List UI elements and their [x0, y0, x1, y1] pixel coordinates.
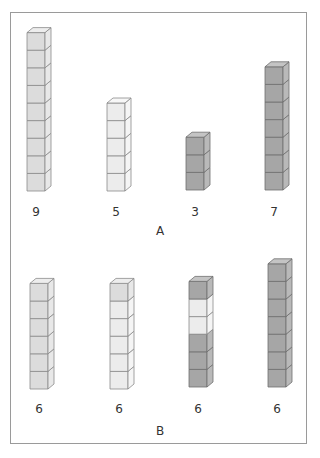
cube-front-face [265, 84, 283, 102]
cube-tower [268, 259, 292, 387]
tower-count-label: 6 [24, 402, 54, 416]
cube-front-face [186, 155, 204, 173]
cube-front-face [27, 103, 45, 121]
cube-front-face [107, 173, 125, 191]
group-label-b: B [145, 424, 175, 438]
cube-front-face [27, 68, 45, 86]
cube-front-face [189, 299, 207, 317]
cube-front-face [27, 85, 45, 103]
cube-front-face [27, 138, 45, 156]
cube-front-face [27, 121, 45, 139]
cube-tower [27, 28, 51, 191]
cube-tower [110, 278, 134, 389]
tower-count-label: 6 [262, 402, 292, 416]
tower-count-label: 3 [180, 205, 210, 219]
cube-front-face [27, 50, 45, 68]
cube-front-face [265, 67, 283, 85]
tower-count-label: 9 [21, 205, 51, 219]
cube [27, 28, 51, 51]
cube-front-face [107, 121, 125, 139]
cube-front-face [30, 371, 48, 389]
cube-front-face [268, 281, 286, 299]
cube-front-face [30, 301, 48, 319]
cube-front-face [268, 334, 286, 352]
cube-front-face [268, 369, 286, 387]
group-a [27, 28, 289, 191]
cube-front-face [268, 352, 286, 370]
cube-front-face [107, 156, 125, 174]
cube-front-face [30, 336, 48, 354]
cube-front-face [265, 155, 283, 173]
cube-front-face [30, 319, 48, 337]
cube-front-face [30, 354, 48, 372]
cube-tower [265, 62, 289, 190]
cube-tower [186, 132, 210, 190]
cube-front-face [265, 120, 283, 138]
cube-front-face [268, 264, 286, 282]
cube-front-face [110, 283, 128, 301]
group-b [30, 259, 292, 389]
cube-front-face [189, 369, 207, 387]
cube-tower [107, 98, 131, 191]
cube-front-face [186, 172, 204, 190]
cube-front-face [107, 103, 125, 121]
cube [265, 62, 289, 85]
group-label-a: A [145, 224, 175, 238]
cube-front-face [189, 317, 207, 335]
cube-front-face [110, 336, 128, 354]
cube-front-face [107, 138, 125, 156]
cube-front-face [27, 173, 45, 191]
cube-front-face [265, 137, 283, 155]
tower-count-label: 6 [104, 402, 134, 416]
cube-front-face [186, 137, 204, 155]
cube-front-face [189, 352, 207, 370]
cube-front-face [268, 317, 286, 335]
cube-front-face [110, 301, 128, 319]
cube [189, 276, 213, 299]
cube-front-face [268, 299, 286, 317]
tower-count-label: 6 [183, 402, 213, 416]
cube-front-face [189, 334, 207, 352]
cube-front-face [110, 371, 128, 389]
cube [186, 132, 210, 155]
cube-front-face [189, 281, 207, 299]
cube-tower [189, 276, 213, 387]
cube [110, 278, 134, 301]
cube-tower [30, 278, 54, 389]
cube [107, 98, 131, 121]
cube-front-face [27, 156, 45, 174]
cube-front-face [110, 319, 128, 337]
cube [268, 259, 292, 282]
cube-front-face [265, 102, 283, 120]
cube-front-face [265, 172, 283, 190]
cube-front-face [27, 33, 45, 51]
tower-count-label: 5 [101, 205, 131, 219]
cube-front-face [110, 354, 128, 372]
cube-front-face [30, 283, 48, 301]
cube [30, 278, 54, 301]
tower-count-label: 7 [259, 205, 289, 219]
